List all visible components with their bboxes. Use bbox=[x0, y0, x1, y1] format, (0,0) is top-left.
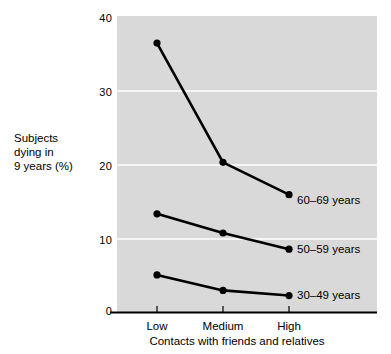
y-axis-tick-40: 40 bbox=[72, 13, 112, 24]
y-axis-tick-0: 0 bbox=[72, 306, 112, 317]
x-axis-tick-high: High bbox=[254, 320, 324, 332]
series-label-30-49: 30–49 years bbox=[297, 289, 360, 301]
y-axis-title-line-1: Subjects bbox=[14, 131, 94, 145]
series-label-50-59: 50–59 years bbox=[297, 243, 360, 255]
y-axis-tick-10: 10 bbox=[72, 235, 112, 246]
y-axis-title: Subjects dying in 9 years (%) bbox=[14, 131, 94, 173]
plot-area bbox=[117, 16, 377, 312]
gridline-30 bbox=[117, 90, 377, 92]
series-label-60-69: 60–69 years bbox=[297, 194, 360, 206]
x-axis-tick-medium: Medium bbox=[188, 320, 258, 332]
y-axis-title-line-3: 9 years (%) bbox=[14, 159, 94, 173]
gridline-10 bbox=[117, 238, 377, 240]
y-axis-title-line-2: dying in bbox=[14, 145, 94, 159]
x-axis-title: Contacts with friends and relatives bbox=[92, 335, 382, 348]
x-axis-tick-low: Low bbox=[122, 320, 192, 332]
chart-figure: 40 30 20 10 0 Subjects dying in 9 years … bbox=[0, 0, 391, 354]
y-axis-tick-30: 30 bbox=[72, 87, 112, 98]
gridline-20 bbox=[117, 164, 377, 166]
